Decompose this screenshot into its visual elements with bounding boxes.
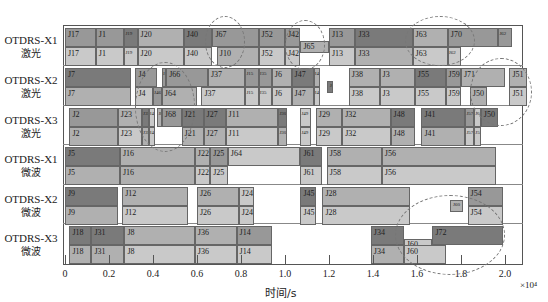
task-bar: J16 — [120, 147, 195, 166]
task-bar: J36 — [195, 245, 237, 264]
task-bar: J42 — [285, 28, 300, 47]
task-bar: J43 — [314, 68, 321, 87]
task-bar: J41 — [421, 108, 465, 127]
task-bar: J17 — [65, 28, 96, 47]
x-tick — [373, 255, 374, 265]
task-bar: J8 — [124, 245, 194, 264]
task-bar: J12 — [122, 206, 188, 225]
task-bar: J34 — [371, 245, 404, 264]
row-label-type: 微波 — [0, 166, 62, 179]
task-bar: J10 — [217, 47, 259, 66]
task-bar: J38 — [349, 87, 380, 106]
task-bar: J25 — [210, 147, 228, 166]
task-bar: J49 — [300, 108, 311, 127]
task-bar: J29 — [316, 108, 342, 127]
task-bar: J56 — [382, 166, 496, 185]
row-label: OTDRS-X1微波 — [0, 153, 62, 179]
task-bar: J4 — [135, 87, 153, 106]
task-bar: J13 — [329, 47, 355, 66]
task-bar: J33 — [355, 28, 412, 47]
row-label: OTDRS-X2激光 — [0, 74, 62, 100]
task-bar: J18 — [69, 226, 91, 245]
task-bar: J48 — [391, 127, 415, 146]
x-tick-label: 2.0 — [490, 268, 520, 279]
task-bar: J1 — [96, 47, 125, 66]
x-tick-label: 1.2 — [314, 268, 344, 279]
task-bar: J51 — [509, 87, 527, 106]
x-tick-label: 1.4 — [358, 268, 388, 279]
task-bar: J68 — [162, 108, 182, 127]
task-bar: J21 — [182, 127, 204, 146]
row-label-name: OTDRS-X1 — [0, 34, 62, 47]
task-bar: J14 — [237, 226, 272, 245]
task-bar: J33 — [355, 47, 412, 66]
task-bar: J61 — [300, 166, 322, 185]
task-bar: J72 — [432, 226, 502, 245]
task-bar: J54 — [468, 206, 503, 225]
task-bar: J17 — [65, 47, 96, 66]
x-tick-label: 0.6 — [182, 268, 212, 279]
task-bar: J25 — [210, 166, 228, 185]
task-bar: J35 — [259, 68, 272, 87]
x-tick — [65, 255, 66, 265]
task-bar: J1 — [96, 28, 125, 47]
x-tick — [285, 255, 286, 265]
x-tick — [329, 255, 330, 265]
task-bar: J70 — [448, 28, 499, 47]
row-label-name: OTDRS-X2 — [0, 74, 62, 87]
task-bar: J38 — [349, 68, 380, 87]
x-tick — [241, 255, 242, 265]
task-bar: J31 — [91, 226, 124, 245]
task-bar: J13 — [329, 28, 355, 47]
row-label: OTDRS-X3微波 — [0, 232, 62, 258]
x-axis-multiplier: ×10⁴ — [520, 280, 537, 290]
row-label-type: 激光 — [0, 87, 62, 100]
task-bar: J71 — [461, 68, 505, 87]
task-bar: J34 — [371, 226, 404, 245]
task-bar: J63 — [413, 47, 448, 66]
x-tick-label: 1.6 — [402, 268, 432, 279]
task-bar: J3 — [380, 87, 415, 106]
task-bar: J44 — [149, 127, 156, 146]
task-bar: J51 — [509, 68, 527, 87]
row-label-name: OTDRS-X3 — [0, 114, 62, 127]
task-bar: J11 — [226, 127, 279, 146]
task-bar: J60 — [404, 245, 446, 264]
x-tick — [461, 255, 462, 265]
x-tick-label: 0.4 — [138, 268, 168, 279]
task-bar: J18 — [69, 245, 91, 264]
row-label-type: 微波 — [0, 206, 62, 219]
x-tick-label: 1.8 — [446, 268, 476, 279]
task-bar: J47 — [292, 68, 314, 87]
row-label-name: OTDRS-X3 — [0, 232, 62, 245]
task-bar: J26 — [197, 206, 239, 225]
task-bar: J36 — [195, 226, 237, 245]
task-bar: J50 — [481, 108, 499, 127]
row-label-type: 微波 — [0, 245, 62, 258]
x-axis-label: 时间/s — [265, 284, 296, 300]
task-bar: J21 — [182, 108, 204, 127]
task-bar: J63 — [413, 28, 448, 47]
task-bar: J39 — [142, 108, 149, 127]
x-tick — [417, 255, 418, 265]
task-bar: J61 — [300, 147, 322, 166]
row-label: OTDRS-X3激光 — [0, 114, 62, 140]
task-bar: J7 — [65, 87, 131, 106]
task-bar: J59 — [446, 87, 461, 106]
task-bar: J42 — [285, 47, 300, 66]
x-tick — [153, 255, 154, 265]
task-bar: J45 — [300, 187, 315, 206]
task-bar: J3 — [380, 68, 415, 87]
task-bar: J46 — [153, 87, 162, 106]
task-bar: J54 — [468, 187, 503, 206]
task-bar: J28 — [322, 206, 410, 225]
task-bar: J9 — [65, 187, 118, 206]
task-bar: J12 — [122, 187, 188, 206]
task-bar: J52 — [259, 28, 285, 47]
task-bar: J23 — [118, 108, 142, 127]
row-label-type: 激光 — [0, 127, 62, 140]
task-bar: J30 — [278, 108, 287, 127]
task-bar: J23 — [118, 127, 142, 146]
task-bar: J48 — [391, 108, 415, 127]
x-tick-label: 0 — [50, 268, 80, 279]
